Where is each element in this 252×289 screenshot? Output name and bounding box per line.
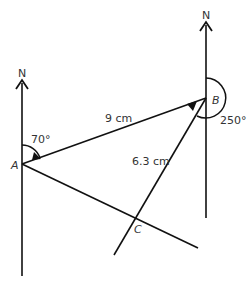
length-label-ab: 9 cm	[105, 112, 132, 125]
point-label-a: A	[10, 159, 19, 172]
point-label-b: B	[212, 94, 220, 107]
north-label-b: N	[202, 9, 210, 22]
point-label-c: C	[134, 223, 142, 236]
angle-label-b: 250°	[220, 114, 247, 127]
north-label-a: N	[18, 67, 26, 80]
length-label-bc: 6.3 cm	[132, 155, 170, 168]
angle-label-a: 70°	[31, 133, 51, 146]
arc-arrow-icon	[187, 101, 197, 111]
north-line-b	[200, 22, 212, 218]
line-ac	[22, 164, 198, 248]
north-line-a	[16, 80, 28, 276]
line-ab	[22, 98, 206, 164]
bearing-diagram: N N 70° 250° A B C 9 cm 6.3 cm	[0, 0, 252, 289]
